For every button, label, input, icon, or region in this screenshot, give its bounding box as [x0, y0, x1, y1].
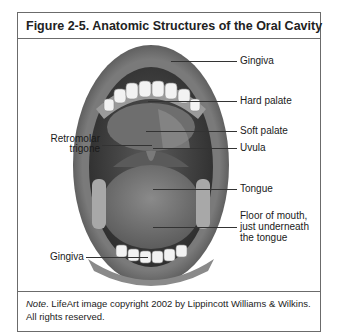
- label-hard-palate: Hard palate: [240, 95, 292, 106]
- leader-soft-palate: [146, 131, 237, 132]
- label-gingiva-lower: Gingiva: [50, 251, 84, 262]
- figure-illustration-area: Gingiva Hard palate Soft palate Uvula To…: [18, 39, 320, 291]
- figure-title: Figure 2-5. Anatomic Structures of the O…: [18, 13, 320, 39]
- note-text: . LifeArt image copyright 2002 by Lippin…: [26, 298, 311, 322]
- note-label: Note: [26, 298, 46, 309]
- leader-uvula: [153, 148, 237, 149]
- label-uvula: Uvula: [240, 142, 266, 153]
- label-floor-of-mouth-1: Floor of mouth,: [240, 210, 307, 221]
- label-floor-of-mouth-2: just underneath: [240, 221, 309, 232]
- label-tongue: Tongue: [240, 183, 273, 194]
- figure-frame: Figure 2-5. Anatomic Structures of the O…: [17, 12, 321, 332]
- label-floor-of-mouth-3: the tongue: [240, 232, 287, 243]
- label-retromolar-2: trigone: [34, 143, 100, 154]
- figure-note: Note. LifeArt image copyright 2002 by Li…: [18, 291, 320, 323]
- leader-floor: [153, 227, 237, 228]
- leader-retromolar: [102, 145, 152, 146]
- leader-hard-palate: [148, 101, 237, 102]
- label-soft-palate: Soft palate: [240, 125, 288, 136]
- label-gingiva-upper: Gingiva: [240, 55, 274, 66]
- leader-gingiva-lower: [86, 257, 148, 258]
- leader-tongue: [153, 189, 237, 190]
- leader-gingiva-upper: [171, 61, 237, 62]
